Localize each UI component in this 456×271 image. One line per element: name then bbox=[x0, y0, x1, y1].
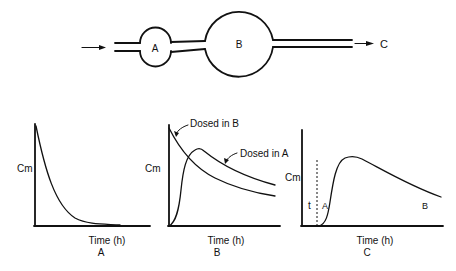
outlet-tube bbox=[273, 40, 352, 47]
output-label: C bbox=[380, 38, 388, 50]
connector-tube bbox=[171, 41, 205, 52]
chart-a-panel-label: A bbox=[98, 247, 105, 258]
compartment-b-label: B bbox=[236, 39, 243, 50]
inlet-tube bbox=[115, 43, 140, 51]
compartment-a: A bbox=[140, 28, 171, 67]
input-arrow-icon bbox=[82, 45, 106, 50]
chart-c-ylabel: Cm bbox=[285, 172, 301, 183]
chart-b-xlabel: Time (h) bbox=[208, 235, 245, 246]
chart-a-ylabel: Cm bbox=[17, 163, 33, 174]
chart-a: Cm Time (h) A bbox=[17, 124, 150, 258]
chart-c-panel-label: C bbox=[363, 247, 370, 258]
chart-a-curve bbox=[36, 126, 120, 225]
chart-b-ylabel: Cm bbox=[145, 163, 161, 174]
compartment-b: B bbox=[205, 12, 273, 77]
chart-c-curve bbox=[319, 157, 441, 226]
output-arrow-icon bbox=[355, 41, 374, 46]
flow-diagram: A B C bbox=[82, 12, 388, 77]
chart-c: Cm t A B Time (h) C bbox=[285, 130, 443, 258]
chart-c-lag-label: t bbox=[308, 200, 311, 211]
chart-a-xlabel: Time (h) bbox=[89, 235, 126, 246]
pharmacokinetic-figure: A B C Cm Time (h) A bbox=[0, 0, 456, 271]
chart-c-annotation-a: A bbox=[322, 201, 328, 211]
chart-c-xlabel: Time (h) bbox=[357, 235, 394, 246]
chart-c-annotation-b: B bbox=[422, 201, 428, 211]
chart-b-curve-dosed-in-a bbox=[169, 149, 275, 226]
compartment-a-label: A bbox=[152, 43, 159, 54]
chart-b-annotation-dosed-in-a: Dosed in A bbox=[240, 148, 289, 159]
chart-b-panel-label: B bbox=[214, 247, 221, 258]
chart-b-annotation-dosed-in-b: Dosed in B bbox=[190, 118, 239, 129]
chart-b-curve-dosed-in-b bbox=[169, 128, 275, 196]
chart-b: Dosed in B Dosed in A Cm Time (h) B bbox=[145, 118, 289, 258]
